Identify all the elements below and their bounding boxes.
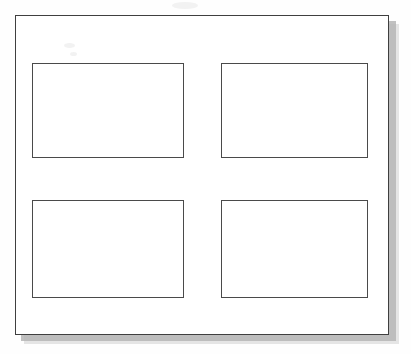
panel-box-4[interactable] [221,200,368,298]
panel-box-1[interactable] [32,63,184,158]
diagram-canvas [0,0,411,354]
panel-box-3[interactable] [32,200,184,298]
scan-smudge-icon [172,2,198,9]
panel-box-2[interactable] [221,63,368,158]
